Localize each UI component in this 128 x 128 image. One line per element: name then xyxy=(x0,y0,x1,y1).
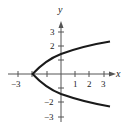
x-tick-label-1: 1 xyxy=(73,79,78,89)
x-tick-label-3: 3 xyxy=(101,79,106,89)
y-tick-label-neg3: −3 xyxy=(44,112,54,122)
x-tick-label-2: 2 xyxy=(87,79,92,89)
y-axis-arrow-icon xyxy=(59,21,64,28)
x-axis-arrow-icon xyxy=(109,72,116,77)
graph: x y −3 1 2 3 3 2 −2 −3 xyxy=(0,0,128,128)
y-tick-label-2: 2 xyxy=(50,41,55,51)
y-axis-label: y xyxy=(57,4,63,15)
x-axis-label: x xyxy=(115,68,121,79)
y-tick-label-3: 3 xyxy=(50,27,55,37)
y-tick-label-neg2: −2 xyxy=(44,97,54,107)
x-tick-label-neg3: −3 xyxy=(11,79,21,89)
